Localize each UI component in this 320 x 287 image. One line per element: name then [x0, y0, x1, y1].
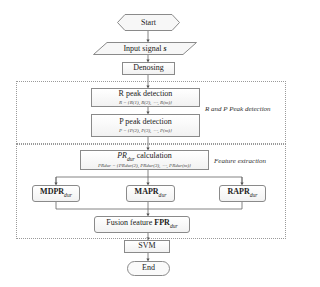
- mdpr-label: MDPRdur: [40, 188, 72, 198]
- pr-calculation-label: PRdur calculation: [117, 152, 172, 162]
- pr-calculation-node: PRdur calculation PRdur = {PRdur(2), PRd…: [80, 150, 209, 170]
- fusion-feature-node: Fusion feature FPRdur: [94, 216, 190, 233]
- rapr-node: RAPRdur: [219, 185, 266, 202]
- svm-node: SVM: [124, 240, 170, 253]
- start-label: Start: [141, 18, 156, 27]
- denoising-label: Denosing: [133, 64, 164, 72]
- end-node: End: [127, 261, 170, 276]
- pr-calculation-formula: PRdur = {PRdur(2), PRdur(3), ⋯, PRdur(m)…: [98, 163, 191, 168]
- group-label-rp-detection: R and P Peak detection: [205, 105, 271, 113]
- input-node: Input signal s: [93, 42, 197, 55]
- p-peak-label: P peak detection: [119, 118, 172, 126]
- start-node: Start: [117, 14, 180, 31]
- mapr-node: MAPRdur: [126, 185, 175, 202]
- mdpr-node: MDPRdur: [32, 185, 80, 202]
- svm-label: SVM: [138, 242, 155, 250]
- r-peak-label: R peak detection: [119, 90, 173, 98]
- denoising-node: Denosing: [122, 62, 175, 75]
- mapr-label: MAPRdur: [135, 188, 167, 198]
- rapr-label: RAPRdur: [228, 188, 258, 198]
- fusion-feature-label: Fusion feature FPRdur: [106, 219, 177, 229]
- end-label: End: [142, 264, 155, 272]
- group-label-feature-extraction: Feature extraction: [214, 157, 266, 165]
- input-label: Input signal s: [123, 44, 166, 53]
- p-peak-formula: P = {P(2), P(3), ⋯, P(m)}: [119, 128, 172, 133]
- p-peak-node: P peak detection P = {P(2), P(3), ⋯, P(m…: [91, 114, 200, 137]
- r-peak-formula: R = {R(1), R(2), ⋯, R(m)}: [119, 100, 172, 105]
- r-peak-node: R peak detection R = {R(1), R(2), ⋯, R(m…: [91, 88, 200, 107]
